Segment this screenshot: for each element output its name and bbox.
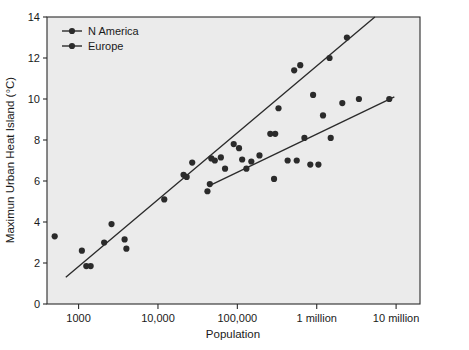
y-tick-label: 0 <box>34 298 40 310</box>
data-point <box>161 196 167 202</box>
data-point <box>88 263 94 269</box>
data-point <box>204 188 210 194</box>
data-point <box>275 105 281 111</box>
legend-symbol-marker <box>69 43 75 49</box>
data-point <box>272 131 278 137</box>
legend-label: N America <box>88 25 140 37</box>
data-point <box>108 221 114 227</box>
data-point <box>297 62 303 68</box>
data-point <box>326 55 332 61</box>
data-point <box>315 162 321 168</box>
y-tick-label: 12 <box>28 52 40 64</box>
x-tick-label: 1 million <box>297 312 337 324</box>
data-point <box>231 141 237 147</box>
y-tick-label: 6 <box>34 175 40 187</box>
data-point <box>310 92 316 98</box>
y-tick-label: 2 <box>34 257 40 269</box>
data-point <box>184 174 190 180</box>
data-point <box>207 181 213 187</box>
y-tick-label: 8 <box>34 134 40 146</box>
data-point <box>339 100 345 106</box>
data-point <box>52 233 58 239</box>
data-point <box>301 135 307 141</box>
data-point <box>294 157 300 163</box>
data-point <box>285 157 291 163</box>
x-axis-title: Population <box>206 328 260 340</box>
y-tick-label: 14 <box>28 11 40 23</box>
data-point <box>243 166 249 172</box>
data-point <box>256 152 262 158</box>
data-point <box>320 112 326 118</box>
y-axis-title: Maximun Urban Heat Island (°C) <box>4 77 16 243</box>
plot-area-background <box>47 17 420 304</box>
data-point <box>328 135 334 141</box>
data-point <box>248 158 254 164</box>
x-tick-label: 10,000 <box>141 312 175 324</box>
scatter-plot: 02468101214 100010,000100,0001 million10… <box>0 0 469 350</box>
data-point <box>236 145 242 151</box>
data-point <box>291 67 297 73</box>
data-point <box>344 34 350 40</box>
data-point <box>189 159 195 165</box>
data-point <box>79 248 85 254</box>
legend-symbol-marker <box>69 28 75 34</box>
data-point <box>356 96 362 102</box>
y-tick-label: 4 <box>34 216 40 228</box>
data-point <box>239 156 245 162</box>
data-point <box>222 166 228 172</box>
data-point <box>271 176 277 182</box>
legend-label: Europe <box>88 40 123 52</box>
data-point <box>123 246 129 252</box>
x-tick-label: 100,000 <box>217 312 257 324</box>
data-point <box>218 154 224 160</box>
chart-container: 02468101214 100010,000100,0001 million10… <box>0 0 469 350</box>
data-point <box>212 157 218 163</box>
data-point <box>122 236 128 242</box>
data-point <box>101 239 107 245</box>
data-point <box>386 96 392 102</box>
y-tick-label: 10 <box>28 93 40 105</box>
x-tick-label: 1000 <box>66 312 90 324</box>
x-tick-label: 10 million <box>373 312 419 324</box>
data-point <box>307 162 313 168</box>
